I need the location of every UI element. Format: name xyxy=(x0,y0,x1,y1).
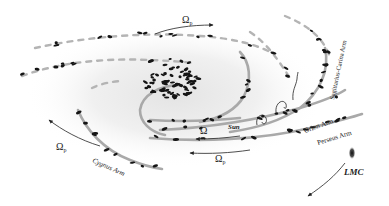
galaxy-diagram: Ωp Ωp Ωp Ω Sun Orion Arm Perseus Arm Sag… xyxy=(0,0,389,206)
sun-label: Sun xyxy=(228,123,240,131)
lmc-arrow xyxy=(308,163,345,196)
star-cluster xyxy=(316,37,321,41)
omega-p-top-label: Ωp xyxy=(182,14,192,26)
perseus-arm-label: Perseus Arm xyxy=(316,129,353,147)
omega-label: Ω xyxy=(200,125,207,136)
lmc-galaxy xyxy=(349,147,356,160)
star-cluster xyxy=(324,63,329,67)
star-cluster xyxy=(164,97,169,99)
lmc-label: LMC xyxy=(343,167,365,177)
